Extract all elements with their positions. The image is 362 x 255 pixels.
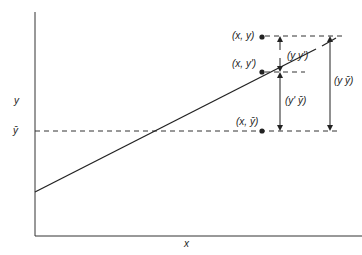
point-x-y-prime [259,69,264,74]
explained-label: (y' ȳ) [285,96,306,106]
regression-line-end [322,38,336,46]
residual-label: (y y') [287,51,308,61]
regression-line [35,49,316,192]
point-x-ybar [259,128,264,133]
point-x-y-prime-label: (x, y') [232,59,256,69]
total-label: (y ȳ) [334,76,353,86]
diagram-canvas [0,0,362,255]
point-x-y [259,34,264,39]
point-x-ybar-label: (x, ȳ) [236,117,258,127]
mean-label: ȳ [13,126,18,136]
y-axis-label: y [14,96,19,106]
x-axis-label: x [184,239,189,249]
point-x-y-label: (x, y) [232,31,254,41]
